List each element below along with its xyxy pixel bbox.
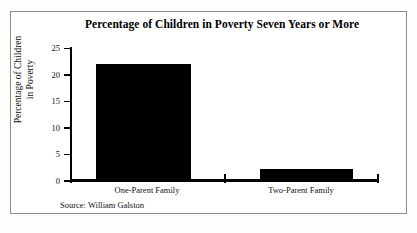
bar-one-parent-family <box>96 64 191 181</box>
chart-figure: Percentage of Children in Poverty Seven … <box>0 0 417 233</box>
y-tick-20 <box>64 74 72 76</box>
y-tick-25 <box>64 48 72 50</box>
y-tick-10 <box>64 127 72 129</box>
y-tick-label-25: 25 <box>40 44 60 53</box>
x-tick-end <box>377 174 379 183</box>
y-tick-15 <box>64 101 72 103</box>
y-axis-line <box>70 47 72 181</box>
y-tick-label-10: 10 <box>40 124 60 133</box>
source-note: Source: William Galston <box>60 200 144 210</box>
chart-title: Percentage of Children in Poverty Seven … <box>46 18 398 30</box>
x-tick-middle <box>224 174 226 183</box>
x-tick-start <box>70 174 72 183</box>
y-tick-label-0: 0 <box>40 177 60 186</box>
y-axis-title-line-2: in Poverty <box>24 15 36 145</box>
y-tick-label-15: 15 <box>40 97 60 106</box>
y-tick-label-20: 20 <box>40 71 60 80</box>
x-tick-label-one-parent-family: One-Parent Family <box>82 185 212 195</box>
y-axis-title-line-1: Percentage of Children <box>13 15 25 145</box>
y-tick-5 <box>64 154 72 156</box>
y-tick-label-5: 5 <box>40 150 60 159</box>
y-axis-title: Percentage of Children in Poverty <box>13 15 36 145</box>
x-tick-label-two-parent-family: Two-Parent Family <box>236 185 366 195</box>
